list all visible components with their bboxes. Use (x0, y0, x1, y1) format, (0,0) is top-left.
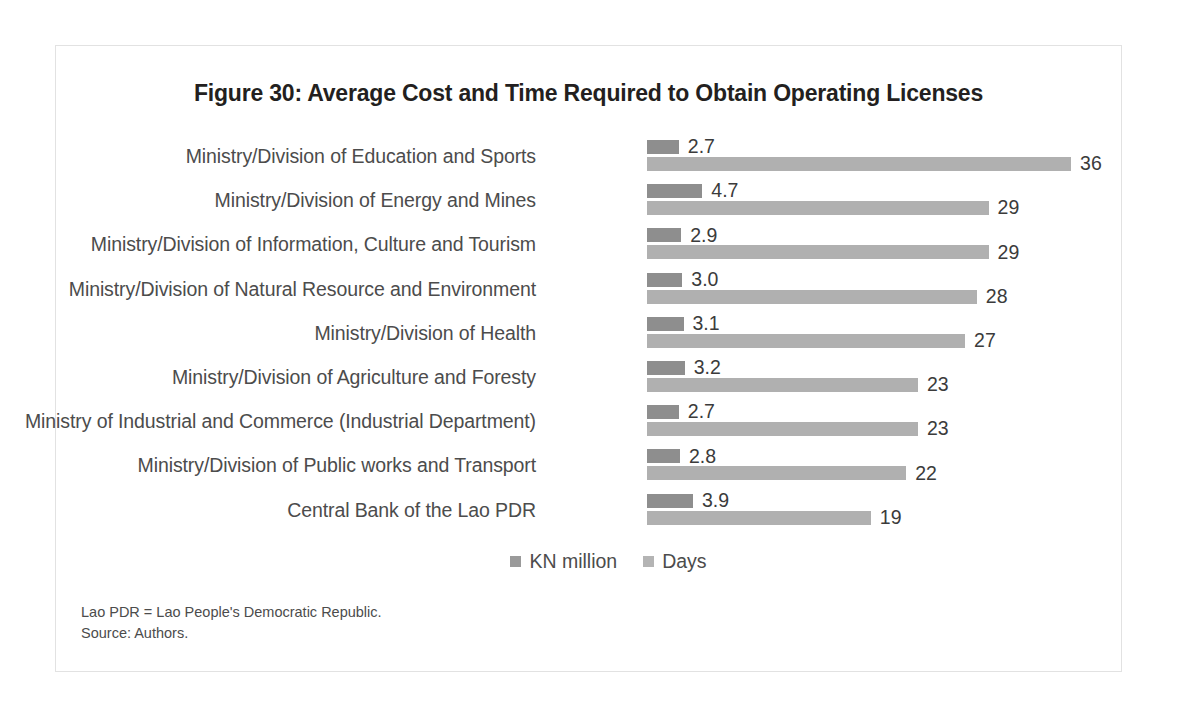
bar-line-cost: 4.7 (647, 184, 738, 198)
bar-days[interactable] (647, 466, 906, 480)
bar-chart-plot: Ministry/Division of Education and Sport… (56, 134, 1121, 546)
category-label: Ministry/Division of Public works and Tr… (138, 454, 536, 477)
bar-value-label: 2.9 (690, 226, 717, 246)
bar-value-label: 28 (986, 287, 1008, 307)
chart-row: Ministry/Division of Education and Sport… (56, 134, 1121, 178)
bar-value-label: 27 (974, 331, 996, 351)
bar-cost[interactable] (647, 405, 679, 419)
bar-group: 4.729 (647, 178, 1121, 222)
chart-row: Ministry/Division of Public works and Tr… (56, 443, 1121, 487)
bar-line-cost: 3.2 (647, 361, 721, 375)
bar-days[interactable] (647, 334, 965, 348)
chart-row: Ministry/Division of Energy and Mines4.7… (56, 178, 1121, 222)
bar-days[interactable] (647, 378, 918, 392)
bar-group: 2.736 (647, 134, 1121, 178)
note-line: Source: Authors. (81, 623, 382, 644)
bar-line-days: 23 (647, 422, 949, 436)
legend-swatch-icon (510, 556, 521, 567)
bar-line-days: 23 (647, 378, 949, 392)
bar-cost[interactable] (647, 361, 685, 375)
chart-row: Ministry/Division of Natural Resource an… (56, 267, 1121, 311)
bar-value-label: 4.7 (711, 181, 738, 201)
figure-notes: Lao PDR = Lao People's Democratic Republ… (81, 602, 382, 644)
bar-group: 2.723 (647, 399, 1121, 443)
bar-cost[interactable] (647, 449, 680, 463)
bar-line-cost: 3.1 (647, 317, 720, 331)
bar-days[interactable] (647, 245, 989, 259)
bar-group: 3.127 (647, 311, 1121, 355)
category-label: Ministry/Division of Information, Cultur… (91, 233, 536, 256)
bar-group: 2.929 (647, 222, 1121, 266)
bar-line-days: 27 (647, 334, 996, 348)
bar-line-days: 19 (647, 511, 902, 525)
category-label: Ministry of Industrial and Commerce (Ind… (25, 410, 536, 433)
legend-item-kn-million[interactable]: KN million (510, 550, 617, 573)
bar-value-label: 29 (998, 198, 1020, 218)
chart-row: Ministry/Division of Agriculture and For… (56, 355, 1121, 399)
chart-row: Ministry/Division of Health3.127 (56, 311, 1121, 355)
bar-group: 3.223 (647, 355, 1121, 399)
chart-row: Ministry of Industrial and Commerce (Ind… (56, 399, 1121, 443)
figure-title: Figure 30: Average Cost and Time Require… (56, 80, 1121, 107)
note-line: Lao PDR = Lao People's Democratic Republ… (81, 602, 382, 623)
bar-line-cost: 2.7 (647, 140, 715, 154)
bar-group: 2.822 (647, 443, 1121, 487)
category-label: Ministry/Division of Agriculture and For… (172, 366, 536, 389)
bar-days[interactable] (647, 511, 871, 525)
bar-line-cost: 2.9 (647, 228, 717, 242)
category-label: Ministry/Division of Energy and Mines (215, 189, 536, 212)
bar-line-cost: 2.7 (647, 405, 715, 419)
bar-cost[interactable] (647, 184, 702, 198)
bar-days[interactable] (647, 157, 1071, 171)
chart-row: Central Bank of the Lao PDR3.919 (56, 488, 1121, 532)
bar-cost[interactable] (647, 140, 679, 154)
bar-days[interactable] (647, 201, 989, 215)
bar-cost[interactable] (647, 317, 684, 331)
bar-value-label: 3.9 (702, 491, 729, 511)
bar-value-label: 36 (1080, 154, 1102, 174)
bar-line-days: 36 (647, 157, 1102, 171)
legend-label: Days (662, 550, 706, 573)
bar-value-label: 19 (880, 508, 902, 528)
bar-line-cost: 3.9 (647, 494, 729, 508)
chart-row: Ministry/Division of Information, Cultur… (56, 222, 1121, 266)
bar-cost[interactable] (647, 273, 682, 287)
bar-value-label: 2.7 (688, 402, 715, 422)
bar-value-label: 23 (927, 375, 949, 395)
bar-value-label: 23 (927, 419, 949, 439)
bar-line-cost: 2.8 (647, 449, 716, 463)
bar-line-days: 28 (647, 290, 1008, 304)
legend-swatch-icon (643, 556, 654, 567)
bar-cost[interactable] (647, 228, 681, 242)
category-label: Ministry/Division of Health (314, 321, 536, 344)
bar-value-label: 3.0 (691, 270, 718, 290)
bar-line-days: 29 (647, 245, 1019, 259)
category-label: Central Bank of the Lao PDR (287, 498, 536, 521)
chart-legend: KN millionDays (56, 550, 1121, 573)
bar-value-label: 2.8 (689, 447, 716, 467)
bar-group: 3.028 (647, 267, 1121, 311)
bar-group: 3.919 (647, 488, 1121, 532)
bar-value-label: 3.2 (694, 358, 721, 378)
bar-days[interactable] (647, 422, 918, 436)
bar-value-label: 2.7 (688, 137, 715, 157)
bar-value-label: 22 (915, 464, 937, 484)
legend-label: KN million (529, 550, 617, 573)
category-label: Ministry/Division of Natural Resource an… (69, 277, 536, 300)
legend-item-days[interactable]: Days (643, 550, 706, 573)
bar-value-label: 29 (998, 243, 1020, 263)
bar-line-cost: 3.0 (647, 273, 718, 287)
figure-panel: Figure 30: Average Cost and Time Require… (55, 45, 1122, 672)
bar-days[interactable] (647, 290, 977, 304)
bar-line-days: 22 (647, 466, 937, 480)
bar-cost[interactable] (647, 494, 693, 508)
bar-line-days: 29 (647, 201, 1019, 215)
category-label: Ministry/Division of Education and Sport… (186, 145, 536, 168)
bar-value-label: 3.1 (693, 314, 720, 334)
